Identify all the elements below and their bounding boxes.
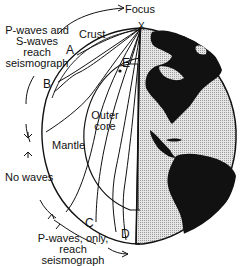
point-c-label: C [85, 218, 94, 229]
focus-x-marker: X [138, 21, 145, 32]
mantle-label: Mantle [52, 140, 85, 151]
point-a-label: A [66, 45, 74, 56]
point-b-label: B [43, 79, 51, 90]
crust-label: Crust [79, 29, 105, 40]
arrow-bracket-no-waves-bottom [40, 200, 56, 218]
focus-label: Focus [125, 4, 155, 15]
p-and-s-line-4: seismograph [3, 58, 71, 69]
no-waves-label: No waves [5, 172, 53, 183]
globe-surface [136, 28, 236, 244]
outer-core-label: Outer core [88, 110, 122, 132]
p-waves-only-line-3: seismograph [36, 255, 110, 266]
p-and-s-waves-label: P-waves and S-waves reach seismograph [3, 25, 71, 69]
p-waves-only-label: P-waves, only, reach seismograph [36, 233, 110, 266]
outer-core-line-2: core [88, 121, 122, 132]
point-e-label: E [122, 58, 130, 69]
point-d-label: D [121, 229, 130, 240]
